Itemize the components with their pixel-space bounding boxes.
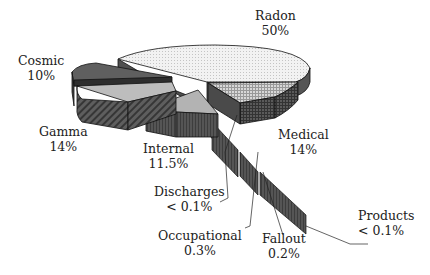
label-cosmic-name: Cosmic [18,53,64,68]
label-occupational: Occupational 0.3% [158,228,242,258]
label-occupational-name: Occupational [158,228,242,243]
label-occupational-pct: 0.3% [158,243,242,258]
label-medical-pct: 14% [278,142,329,157]
slice-medical [208,82,298,124]
label-gamma: Gamma 14% [39,124,88,154]
label-fallout-name: Fallout [262,231,306,246]
label-fallout-pct: 0.2% [262,246,306,261]
label-products-pct: < 0.1% [358,223,414,238]
label-products: Products < 0.1% [358,208,414,238]
label-products-name: Products [358,208,414,223]
label-discharges: Discharges < 0.1% [154,184,225,214]
slice-fallout [240,152,258,195]
label-discharges-name: Discharges [154,184,225,199]
label-gamma-name: Gamma [39,124,88,139]
label-internal: Internal 11.5% [143,141,194,171]
label-medical: Medical 14% [278,127,329,157]
label-discharges-pct: < 0.1% [154,199,225,214]
label-cosmic: Cosmic 10% [18,53,64,83]
label-medical-name: Medical [278,127,329,142]
label-radon: Radon 50% [255,8,296,38]
label-internal-pct: 11.5% [143,156,194,171]
slice-products [260,172,306,234]
label-gamma-pct: 14% [39,139,88,154]
label-radon-pct: 50% [255,23,296,38]
label-fallout: Fallout 0.2% [262,231,306,261]
label-cosmic-pct: 10% [18,68,64,83]
label-radon-name: Radon [255,8,296,23]
label-internal-name: Internal [143,141,194,156]
